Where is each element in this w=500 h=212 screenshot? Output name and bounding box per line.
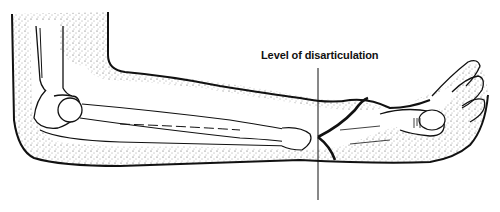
wrist-disarticulation-illustration	[0, 0, 500, 212]
annotation-label: Level of disarticulation	[261, 49, 378, 61]
arm-skin-outline	[12, 12, 488, 166]
